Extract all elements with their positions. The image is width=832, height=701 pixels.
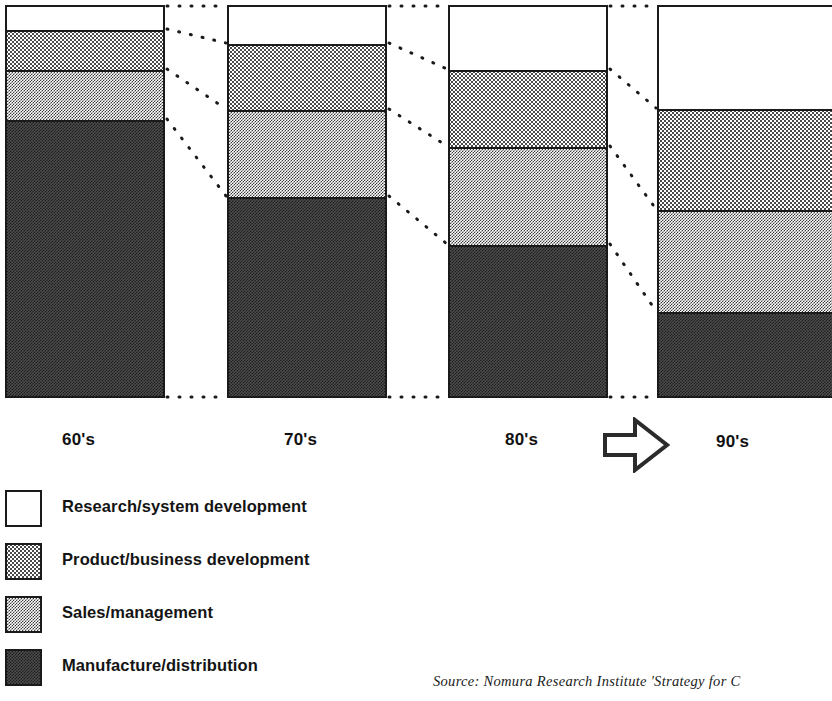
bar-60s-segment-sales [7, 70, 163, 120]
bar-60s-segment-product [7, 30, 163, 70]
x-axis-label-60s: 60's [62, 430, 95, 450]
legend-label-product: Product/business development [62, 550, 310, 569]
bar-80s-segment-research [450, 7, 606, 70]
legend: Research/system development Product/busi… [5, 488, 425, 700]
bar-80s-segment-sales [450, 147, 606, 245]
bar-70s-segment-manufacture [229, 197, 385, 396]
x-axis-label-70s: 70's [284, 430, 317, 450]
bar-80s [448, 5, 608, 398]
x-axis-label-90s: 90's [716, 432, 749, 452]
bar-90s-segment-research [659, 7, 832, 109]
bar-60s-segment-manufacture [7, 120, 163, 396]
bar-80s-segment-manufacture [450, 245, 606, 396]
x-axis-label-80's: 80's [505, 430, 538, 450]
legend-label-research: Research/system development [62, 497, 307, 516]
bar-80s-segment-product [450, 70, 606, 147]
bar-90s-segment-product [659, 109, 832, 210]
legend-item-research: Research/system development [5, 488, 425, 541]
legend-item-manufacture: Manufacture/distribution [5, 647, 425, 700]
bar-60s [5, 5, 165, 398]
bar-70s [227, 5, 387, 398]
bar-90s-segment-sales [659, 210, 832, 312]
bar-70s-segment-product [229, 44, 385, 110]
legend-label-sales: Sales/management [62, 603, 213, 622]
right-arrow-icon [602, 417, 670, 473]
source-note: Source: Nomura Research Institute 'Strat… [433, 673, 741, 690]
bar-70s-segment-sales [229, 110, 385, 197]
bar-90s [657, 5, 832, 398]
legend-item-sales: Sales/management [5, 594, 425, 647]
legend-swatch-manufacture [5, 649, 42, 686]
legend-swatch-product [5, 543, 42, 580]
bar-70s-segment-research [229, 7, 385, 44]
bar-90s-segment-manufacture [659, 312, 832, 396]
legend-swatch-sales [5, 596, 42, 633]
legend-item-product: Product/business development [5, 541, 425, 594]
bar-60s-segment-research [7, 7, 163, 30]
legend-swatch-research [5, 490, 42, 527]
legend-label-manufacture: Manufacture/distribution [62, 656, 258, 675]
